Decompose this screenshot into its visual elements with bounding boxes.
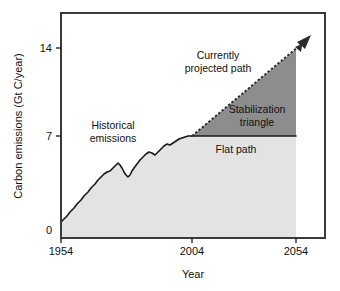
ytick-label-0: 0	[46, 224, 52, 236]
carbon-emissions-chart-figure: 14 7 0 1954 2004 2054 Carbon emissions (…	[0, 0, 340, 291]
ytick-label-7: 7	[46, 130, 52, 142]
annotation-flat-path: Flat path	[216, 143, 257, 155]
xtick-label-2004: 2004	[180, 245, 204, 257]
ytick-label-14: 14	[40, 42, 52, 54]
annotation-historical-emissions-line2: emissions	[90, 132, 137, 144]
xtick-label-1954: 1954	[49, 245, 73, 257]
annotation-projected-path-line2: projected path	[185, 62, 252, 74]
annotation-projected-path-line1: Currently	[197, 49, 240, 61]
xtick-label-2054: 2054	[284, 245, 308, 257]
annotation-stabilization-triangle-line2: triangle	[240, 116, 275, 128]
chart-canvas: 14 7 0 1954 2004 2054 Carbon emissions (…	[0, 0, 340, 291]
annotation-historical-emissions-line1: Historical	[91, 119, 134, 131]
annotation-stabilization-triangle-line1: Stabilization	[229, 103, 286, 115]
x-axis-title: Year	[182, 268, 205, 280]
y-axis-title: Carbon emissions (Gt C/year)	[12, 53, 24, 199]
